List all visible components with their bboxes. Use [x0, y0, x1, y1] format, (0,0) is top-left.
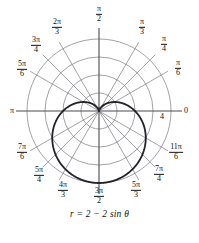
angle-label-pi-over-6: π6	[175, 59, 181, 77]
angle-label-four-pi-over-3: 4π3	[58, 181, 68, 199]
angle-label-denominator: 3	[58, 191, 68, 199]
angle-label-pi: π	[10, 107, 14, 115]
angle-label-three-pi-over-4: 3π4	[31, 36, 41, 54]
angle-label-denominator: 3	[52, 28, 62, 36]
angle-label-denominator: 6	[17, 153, 27, 161]
radial-tick-label-4: 4	[160, 113, 164, 121]
angle-label-denominator: 4	[154, 175, 164, 183]
angle-label-denominator: 4	[31, 46, 41, 54]
angle-label-numerator: π	[175, 59, 181, 67]
angle-label-numerator: 7π	[154, 165, 164, 173]
angle-label-pi-over-3: π3	[139, 18, 145, 36]
polar-plot-figure: 0π6π4π3π22π33π45π6π7π65π44π33π25π37π411π…	[0, 0, 199, 243]
angle-label-numerator: 5π	[34, 166, 44, 174]
angle-label-numerator: 2π	[52, 18, 62, 26]
angle-label-five-pi-over-6: 5π6	[17, 60, 27, 78]
angle-label-two-pi-over-3: 2π3	[52, 18, 62, 36]
angle-label-five-pi-over-3: 5π3	[131, 181, 141, 199]
angle-label-numerator: 7π	[17, 143, 27, 151]
figure-caption: r = 2 − 2 sin θ	[0, 209, 199, 219]
angle-label-pi-over-4: π4	[161, 35, 167, 53]
angle-label-seven-pi-over-6: 7π6	[17, 143, 27, 161]
angle-label-denominator: 4	[34, 176, 44, 184]
angle-label-denominator: 2	[96, 15, 102, 23]
angle-label-numerator: 4π	[58, 181, 68, 189]
angle-label-denominator: 2	[94, 197, 104, 205]
angle-label-three-pi-over-2: 3π2	[94, 187, 104, 205]
angle-label-numerator: π	[139, 18, 145, 26]
angle-label-denominator: 6	[169, 153, 183, 161]
angle-label-numerator: 11π	[169, 143, 183, 151]
angle-label-denominator: 3	[131, 191, 141, 199]
angle-label-denominator: 6	[17, 70, 27, 78]
angle-label-numerator: π	[161, 35, 167, 43]
angle-label-pi-over-2: π2	[96, 5, 102, 23]
angle-label-eleven-pi-over-6: 11π6	[169, 143, 183, 161]
angle-label-text: 0	[184, 107, 188, 115]
angle-label-zero: 0	[184, 107, 188, 115]
angle-label-numerator: 3π	[31, 36, 41, 44]
angle-label-numerator: 5π	[17, 60, 27, 68]
angle-label-denominator: 3	[139, 28, 145, 36]
angle-label-seven-pi-over-4: 7π4	[154, 165, 164, 183]
angle-label-text: π	[10, 107, 14, 115]
angle-label-denominator: 4	[161, 45, 167, 53]
angle-label-numerator: π	[96, 5, 102, 13]
angle-label-numerator: 5π	[131, 181, 141, 189]
angle-label-numerator: 3π	[94, 187, 104, 195]
angle-label-five-pi-over-4: 5π4	[34, 166, 44, 184]
polar-plot-canvas	[0, 0, 199, 243]
angle-label-denominator: 6	[175, 69, 181, 77]
